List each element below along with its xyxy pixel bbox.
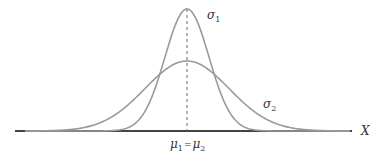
mean-label: μ1=μ2 (170, 137, 205, 153)
sigma2-label: σ2 (263, 97, 276, 113)
x-axis-label: X (360, 124, 370, 138)
normal-curves-diagram: σ1 σ2 X μ1=μ2 (0, 0, 382, 159)
sigma1-label: σ1 (207, 8, 220, 24)
